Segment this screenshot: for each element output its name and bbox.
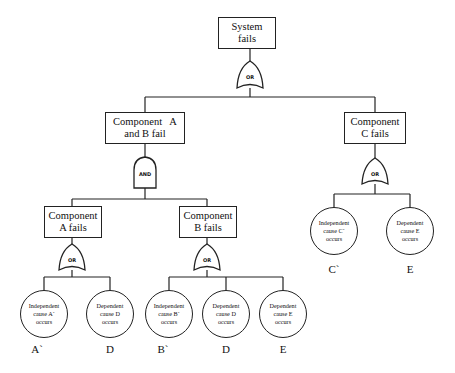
basic-event-dependent-e-1: Dependent cause E occurs: [259, 290, 307, 338]
tag-b-prime: B`: [148, 343, 178, 355]
circle-text: occurs: [402, 235, 418, 243]
circle-text: cause C`: [323, 227, 344, 235]
circle-text: cause A`: [33, 310, 54, 318]
event-component-a-and-b-fail: Component A and B fail: [105, 112, 185, 144]
event-ab-line2: and B fail: [124, 128, 165, 140]
basic-event-dependent-d-2: Dependent cause D occurs: [202, 290, 250, 338]
circle-text: occurs: [36, 318, 52, 326]
event-component-b-fails: Component B fails: [179, 206, 237, 238]
basic-event-independent-c: Independent cause C` occurs: [310, 207, 358, 255]
event-a-line1: Component: [49, 210, 98, 222]
circle-text: Independent: [154, 302, 185, 310]
tag-e-2: E: [395, 263, 425, 275]
event-a-line2: A fails: [59, 222, 87, 234]
gate-label-b: OR: [195, 257, 219, 263]
basic-event-independent-b: Independent cause B` occurs: [145, 290, 193, 338]
event-c-line2: C fails: [361, 128, 389, 140]
circle-text: Dependent: [270, 302, 297, 310]
tag-d-2: D: [211, 343, 241, 355]
basic-event-dependent-e-2: Dependent cause E occurs: [386, 207, 434, 255]
circle-text: occurs: [102, 318, 118, 326]
basic-event-dependent-d-1: Dependent cause D occurs: [86, 290, 134, 338]
event-b-line1: Component: [184, 210, 233, 222]
circle-text: occurs: [275, 318, 291, 326]
event-component-a-fails: Component A fails: [44, 206, 102, 238]
event-c-line1: Component: [351, 116, 400, 128]
tag-c-prime: C`: [319, 263, 349, 275]
top-event-line2: fails: [238, 33, 256, 45]
gate-label-c: OR: [363, 171, 387, 177]
top-event-line1: System: [232, 21, 263, 33]
circle-text: Independent: [29, 302, 60, 310]
gate-label-a: OR: [60, 257, 84, 263]
circle-text: Dependent: [97, 302, 124, 310]
event-ab-line1: Component A: [113, 116, 177, 128]
tag-a-prime: A`: [22, 343, 52, 355]
circle-text: occurs: [161, 318, 177, 326]
top-event-system-fails: System fails: [218, 17, 276, 49]
circle-text: occurs: [326, 235, 342, 243]
circle-text: Dependent: [213, 302, 240, 310]
basic-event-independent-a: Independent cause A` occurs: [20, 290, 68, 338]
gate-label-ab: AND: [133, 171, 157, 177]
gate-label-top: OR: [238, 74, 262, 80]
circle-text: cause E: [273, 310, 292, 318]
circle-text: cause D: [216, 310, 236, 318]
circle-text: cause B`: [158, 310, 179, 318]
circle-text: occurs: [218, 318, 234, 326]
circle-text: cause E: [400, 227, 419, 235]
circle-text: Independent: [319, 219, 350, 227]
tag-d-1: D: [95, 343, 125, 355]
tag-e-1: E: [268, 343, 298, 355]
event-b-line2: B fails: [194, 222, 222, 234]
circle-text: cause D: [100, 310, 120, 318]
event-component-c-fails: Component C fails: [344, 112, 406, 144]
circle-text: Dependent: [397, 219, 424, 227]
